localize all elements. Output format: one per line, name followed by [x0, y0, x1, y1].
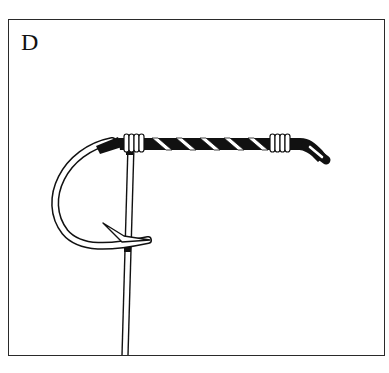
hook-barb — [103, 223, 150, 242]
right-wrap-coils — [270, 134, 290, 152]
left-wrap-coils — [124, 134, 144, 152]
knot-illustration — [0, 0, 389, 373]
hook-shank — [118, 138, 326, 162]
hook-eye — [306, 145, 326, 160]
leader-line — [122, 145, 134, 355]
